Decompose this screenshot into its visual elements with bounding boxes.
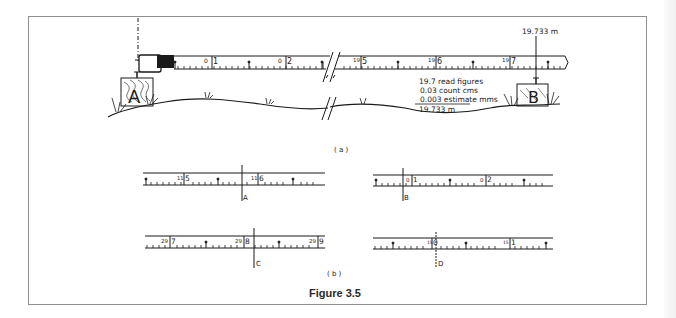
calc-line-figures: 19.7 read figures <box>419 77 483 86</box>
panel-a-right-minor: 6 <box>259 174 264 183</box>
tape-label-19a: 19 <box>353 57 360 63</box>
figure-caption-text: Figure 3.5 <box>309 287 361 299</box>
tape-label-6: 6 <box>437 57 442 66</box>
panel-d-left-minor: 0 <box>433 238 438 247</box>
panel-d-right-major: 15 <box>503 240 509 245</box>
part-a-tape-diagram: 0 1 0 2 <box>108 18 568 154</box>
reading-panel-b <box>373 168 553 201</box>
reading-panel-a <box>143 165 325 201</box>
tape-label-0-small-2: 0 <box>278 57 282 64</box>
tape-leader <box>157 55 174 68</box>
panel-c-right-minor: 9 <box>319 237 324 246</box>
reading-panel-d <box>373 232 553 268</box>
panel-b-left-major: 0 <box>406 177 410 183</box>
panel-c-id: C <box>256 260 261 268</box>
panel-d-left-major: 15 <box>427 240 433 245</box>
panel-a-left-minor: 5 <box>185 174 190 183</box>
tape-left-section <box>174 56 330 69</box>
tape-label-19b: 19 <box>428 57 435 63</box>
panel-c-left-minor: 7 <box>171 237 176 246</box>
panel-b-right-major: 0 <box>480 177 484 183</box>
calc-line-mms: 0.003 estimate mms <box>420 95 498 104</box>
panel-a-id: A <box>243 194 248 202</box>
panel-c-mid-major: 29 <box>235 238 242 244</box>
panel-a-right-major: 11 <box>251 175 257 181</box>
panel-d-right-minor: 1 <box>511 238 516 247</box>
peg-b-label: B <box>528 88 539 107</box>
tape-label-2: 2 <box>287 57 292 66</box>
figure-caption: Figure 3.5 <box>0 287 676 299</box>
tape-label-19c: 19 <box>502 57 509 63</box>
panel-d-id: D <box>438 260 443 268</box>
panel-b-id: B <box>404 194 409 202</box>
tape-break-marks <box>322 52 340 120</box>
reading-panel-c <box>145 228 325 268</box>
tape-label-0-small: 0 <box>204 57 208 64</box>
panel-b-right-minor: 2 <box>487 175 492 184</box>
part-a-label: ( a ) <box>334 146 348 154</box>
panel-c-mid-minor: 8 <box>245 237 250 246</box>
tape-label-5: 5 <box>362 57 367 66</box>
panel-b-left-minor: 1 <box>413 176 417 184</box>
peg-a-label: A <box>128 86 141 107</box>
panel-c-right-major: 29 <box>309 238 316 244</box>
panel-a-left-major: 11 <box>177 175 183 181</box>
calc-line-cms: 0.03 count cms <box>420 86 478 95</box>
reading-value: 19.733 m <box>522 27 558 36</box>
panel-c-left-major: 29 <box>161 238 168 244</box>
tape-label-1: 1 <box>213 57 218 66</box>
figure-3-5-diagram: 0 1 0 2 <box>0 0 676 318</box>
tape-label-7: 7 <box>511 57 516 66</box>
part-b-label: ( b ) <box>327 270 342 278</box>
